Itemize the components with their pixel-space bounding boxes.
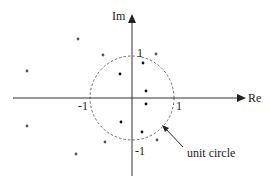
point-outer — [155, 53, 158, 56]
re-axis-label: Re — [248, 91, 261, 105]
point-inner — [141, 131, 144, 134]
point-inner — [120, 121, 123, 124]
point-outer — [104, 141, 107, 144]
point-inner — [142, 62, 145, 65]
point-outer — [26, 125, 29, 128]
annotation-arrow-line — [165, 128, 183, 147]
im-neg-tick-label: -1 — [135, 144, 145, 158]
point-outer — [102, 54, 105, 57]
complex-plane-diagram: Re Im 1 -1 1 -1 unit circle — [0, 0, 270, 183]
point-inner — [145, 103, 148, 106]
im-pos-tick-label: 1 — [137, 46, 143, 60]
point-inner — [145, 90, 148, 93]
point-outer — [156, 139, 159, 142]
point-inner — [119, 73, 122, 76]
point-outer — [26, 70, 29, 73]
re-pos-tick-label: 1 — [176, 99, 182, 113]
imaginary-axis-arrow-icon — [128, 14, 136, 23]
unit-circle-annotation: unit circle — [187, 146, 235, 160]
point-outer — [77, 38, 80, 41]
im-axis-label: Im — [112, 9, 126, 23]
real-axis-arrow-icon — [237, 94, 246, 102]
re-neg-tick-label: -1 — [78, 99, 88, 113]
point-outer — [75, 153, 78, 156]
